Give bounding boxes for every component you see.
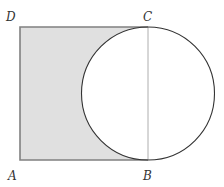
label-a: A <box>7 169 17 183</box>
geometry-figure: D C A B <box>0 0 224 187</box>
label-d: D <box>5 10 16 24</box>
label-c: C <box>143 10 152 24</box>
shaded-region <box>20 27 148 160</box>
label-b: B <box>142 169 152 183</box>
